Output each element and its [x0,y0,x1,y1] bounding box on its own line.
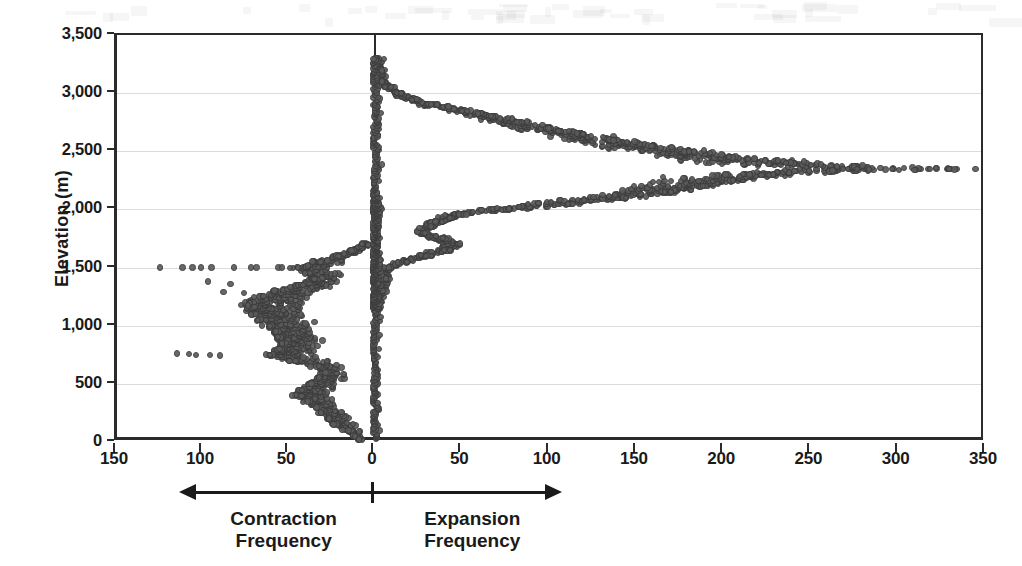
y-axis-tick-mark [107,381,114,383]
expansion-frequency-label: Expansion Frequency [424,508,520,553]
scatter-point [686,148,692,154]
scatter-point [866,166,872,172]
scatter-point [245,302,251,308]
scatter-point [535,200,541,206]
scan-artifact [716,3,737,9]
scatter-point [854,166,860,172]
scan-artifact [989,18,1022,27]
elevation-frequency-chart: 3,5003,0002,5002,0001,5001,0005000 Eleva… [0,0,1022,566]
x-axis-tick-label: 50 [450,449,469,469]
scatter-point [186,351,192,357]
scan-artifact [503,5,527,12]
scatter-point [227,281,233,287]
scatter-point [927,166,933,172]
scatter-point [746,171,752,177]
scatter-point [308,380,314,386]
scatter-point [289,392,295,398]
scatter-point [459,108,465,114]
scatter-point [348,247,354,253]
scatter-point [972,166,978,172]
y-axis-tick-mark [107,90,114,92]
scan-artifact [498,14,524,23]
scatter-point [260,293,266,299]
scatter-point [818,161,824,167]
scatter-point [730,177,736,183]
x-axis-tick-mark [807,443,809,452]
scan-artifact [110,13,129,21]
scan-artifact [959,5,996,11]
x-axis-tick-label: 100 [533,449,561,469]
scatter-point [302,320,308,326]
scan-artifact [408,6,433,14]
y-axis-title: Elevation (m) [52,170,73,287]
scan-artifact [805,16,841,22]
scatter-point [322,369,328,375]
expansion-label-line2: Frequency [424,530,520,551]
scatter-point [574,130,580,136]
contraction-frequency-label: Contraction Frequency [230,508,337,553]
scatter-point [335,253,341,259]
scan-artifact [772,10,797,18]
scatter-point [300,282,306,288]
scatter-point [668,144,674,150]
x-axis-tick-label: 0 [367,449,376,469]
scan-artifact [442,11,450,20]
scatter-point [877,165,883,171]
scatter-point [911,167,917,173]
scatter-point [379,67,385,73]
scan-artifact [243,7,251,14]
scatter-point [217,352,223,358]
x-axis-tick-label: 250 [795,449,823,469]
scatter-point [241,290,247,296]
scan-artifact [545,7,551,16]
scatter-point [901,165,907,171]
scatter-point [220,289,226,295]
scan-artifact [471,15,484,19]
scatter-point [555,128,561,134]
scatter-point [751,155,757,161]
scatter-point [648,143,654,149]
scatter-point [428,101,434,107]
expansion-arrow-line [372,491,545,494]
scan-artifact [610,14,630,18]
scan-artifact [348,8,361,14]
scatter-point [332,270,338,276]
x-axis-tick-mark [546,443,548,452]
scatter-point [668,189,674,195]
scatter-point [193,352,199,358]
x-axis-tick-mark [371,443,373,452]
scatter-point [439,219,445,225]
scatter-point [829,167,835,173]
y-axis-tick-mark [107,265,114,267]
scatter-point [316,374,322,380]
y-axis-tick-mark [107,148,114,150]
scatter-point [338,409,344,415]
scan-artifact [496,16,503,24]
scan-artifact [325,18,333,27]
scatter-point [271,287,277,293]
scatter-point [248,311,254,317]
scatter-point [680,175,686,181]
scan-artifact [802,4,837,13]
scatter-point [207,352,213,358]
x-axis-tick-label: 200 [707,449,735,469]
y-axis-tick-mark [107,206,114,208]
scan-artifact [131,6,147,15]
scatter-point [788,159,794,165]
scatter-point [623,195,629,201]
scatter-point [356,436,362,442]
x-axis-tick-label: 300 [882,449,910,469]
scatter-point [668,178,674,184]
x-axis-tick-mark [199,443,201,452]
x-axis-tick-label: 150 [100,449,128,469]
scatter-point [205,278,211,284]
scan-artifact [496,11,516,20]
scan-artifact [740,4,765,9]
scatter-point [330,421,336,427]
scan-artifact [530,15,556,24]
y-axis-tick-label: 2,500 [62,140,102,159]
scan-artifact [773,15,795,23]
y-axis-tick-label: 3,500 [62,24,102,43]
scatter-point [840,166,846,172]
scatter-point [859,162,865,168]
